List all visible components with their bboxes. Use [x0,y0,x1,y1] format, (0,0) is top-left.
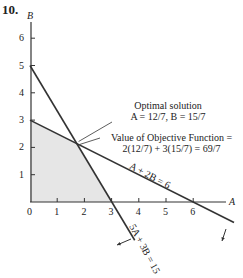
objective-annotation: Value of Objective Function = 2(12/7) + … [100,132,243,154]
constraint1-arrow-head [221,237,224,241]
y-tick-label: 2 [19,141,24,152]
y-tick-label: 5 [19,60,24,71]
x-tick-label: 0 [27,206,32,217]
optimal-solution-annotation: Optimal solution A = 12/7, B = 15/7 [118,100,218,122]
x-tick-label: 4 [136,206,141,217]
x-tick-label: 5 [163,206,168,217]
optimal-values: A = 12/7, B = 15/7 [118,111,218,122]
x-axis-label: A [229,196,235,207]
y-tick-label: 4 [19,87,24,98]
x-tick-label: 6 [190,206,195,217]
x-tick-label: 2 [81,206,86,217]
objective-calc: 2(12/7) + 3(15/7) = 69/7 [100,143,243,154]
y-tick-label: 3 [19,114,24,125]
optimal-title: Optimal solution [118,100,218,111]
objective-title: Value of Objective Function = [100,132,243,143]
y-tick-label: 1 [19,169,24,180]
x-tick-label: 1 [54,206,59,217]
y-tick-label: 6 [19,32,24,43]
x-tick-label: 3 [109,206,114,217]
y-axis-label: B [27,10,33,21]
